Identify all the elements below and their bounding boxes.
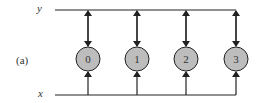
node-label: 3 [233, 53, 239, 65]
diagram-graphics: 0123 [0, 0, 263, 103]
node-label: 0 [85, 53, 91, 65]
node-label: 2 [183, 53, 189, 65]
node-1: 1 [125, 11, 149, 95]
node-label: 1 [134, 53, 140, 65]
node-2: 2 [174, 11, 198, 95]
node-3: 3 [224, 11, 248, 95]
diagram: y (a) x 0123 [0, 0, 263, 103]
node-0: 0 [76, 11, 100, 95]
